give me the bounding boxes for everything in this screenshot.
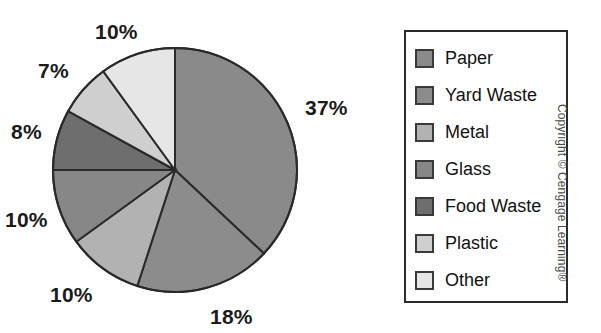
legend-swatch-food-waste — [415, 197, 434, 216]
legend-label-food-waste: Food Waste — [445, 196, 541, 217]
slice-label-yard-waste: 18% — [210, 305, 253, 329]
slice-label-paper: 37% — [305, 96, 348, 120]
legend-swatch-paper — [415, 49, 434, 68]
legend-label-paper: Paper — [445, 48, 493, 69]
legend-swatch-plastic — [415, 234, 434, 253]
legend-swatch-other — [415, 271, 434, 290]
legend-label-metal: Metal — [445, 122, 489, 143]
slice-label-glass: 10% — [5, 208, 48, 232]
legend-label-glass: Glass — [445, 159, 491, 180]
legend-item-other: Other — [415, 262, 566, 299]
legend-item-paper: Paper — [415, 40, 566, 77]
legend-item-glass: Glass — [415, 151, 566, 188]
slice-label-other: 10% — [95, 20, 138, 44]
legend-label-yard-waste: Yard Waste — [445, 85, 537, 106]
slice-label-food-waste: 8% — [11, 120, 42, 144]
legend-item-food-waste: Food Waste — [415, 188, 566, 225]
legend: Paper Yard Waste Metal Glass Food Waste … — [404, 30, 568, 303]
legend-item-yard-waste: Yard Waste — [415, 77, 566, 114]
slice-label-metal: 10% — [50, 283, 93, 307]
legend-swatch-metal — [415, 123, 434, 142]
slice-label-plastic: 7% — [38, 59, 69, 83]
legend-item-plastic: Plastic — [415, 225, 566, 262]
copyright-notice: Copyright © Cengage Learning® — [555, 104, 569, 324]
legend-label-plastic: Plastic — [445, 233, 498, 254]
pie-chart-figure: 37% 18% 10% 10% 8% 7% 10% Paper Yard Was… — [0, 0, 601, 333]
legend-swatch-glass — [415, 160, 434, 179]
legend-label-other: Other — [445, 270, 490, 291]
legend-item-metal: Metal — [415, 114, 566, 151]
legend-swatch-yard-waste — [415, 86, 434, 105]
